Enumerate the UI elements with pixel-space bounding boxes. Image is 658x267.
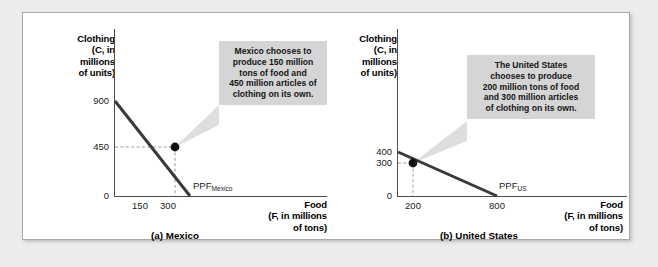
- callout-line-2: chooses to produce: [473, 71, 589, 82]
- panel-us: Clothing (C, in millions of units) 400 3…: [327, 13, 631, 241]
- ppf-label-mexico: PPFMexico: [193, 180, 232, 191]
- x-axis-title-line-1: Food: [304, 199, 327, 210]
- data-point-mexico: [171, 143, 180, 152]
- panel-mexico: Clothing (C, in millions of units) 900 4…: [23, 13, 327, 241]
- callout-line-5: clothing on its own.: [225, 89, 321, 100]
- callout-us: The United States chooses to produce 200…: [467, 55, 595, 119]
- x-axis-title-line-2: (F, in millions: [564, 210, 623, 221]
- callout-line-3: 200 million tons of food: [473, 82, 589, 93]
- data-point-us: [409, 159, 418, 168]
- x-axis-title-line-2: (F, in millions: [268, 210, 327, 221]
- ppf-label-text: PPF: [499, 180, 517, 191]
- ppf-label-text: PPF: [193, 180, 211, 191]
- x-axis-title: Food (F, in millions of tons): [227, 199, 327, 233]
- x-axis-title-line-1: Food: [600, 199, 623, 210]
- callout-leader: [175, 105, 219, 147]
- callout-line-1: The United States: [473, 60, 589, 71]
- callout-line-4: and 300 million articles: [473, 92, 589, 103]
- callout-line-4: 450 million articles of: [225, 78, 321, 89]
- ppf-label-subscript: US: [517, 185, 526, 192]
- callout-line-5: of clothing on its own.: [473, 103, 589, 114]
- panel-caption-us: (b) United States: [327, 230, 631, 241]
- ppf-label-subscript: Mexico: [211, 185, 232, 192]
- ppf-label-us: PPFUS: [499, 180, 527, 191]
- figure-frame: Clothing (C, in millions of units) 900 4…: [22, 12, 630, 240]
- panel-caption-mexico: (a) Mexico: [23, 230, 327, 241]
- x-axis-title: Food (F, in millions of tons): [523, 199, 623, 233]
- callout-leader: [413, 121, 467, 163]
